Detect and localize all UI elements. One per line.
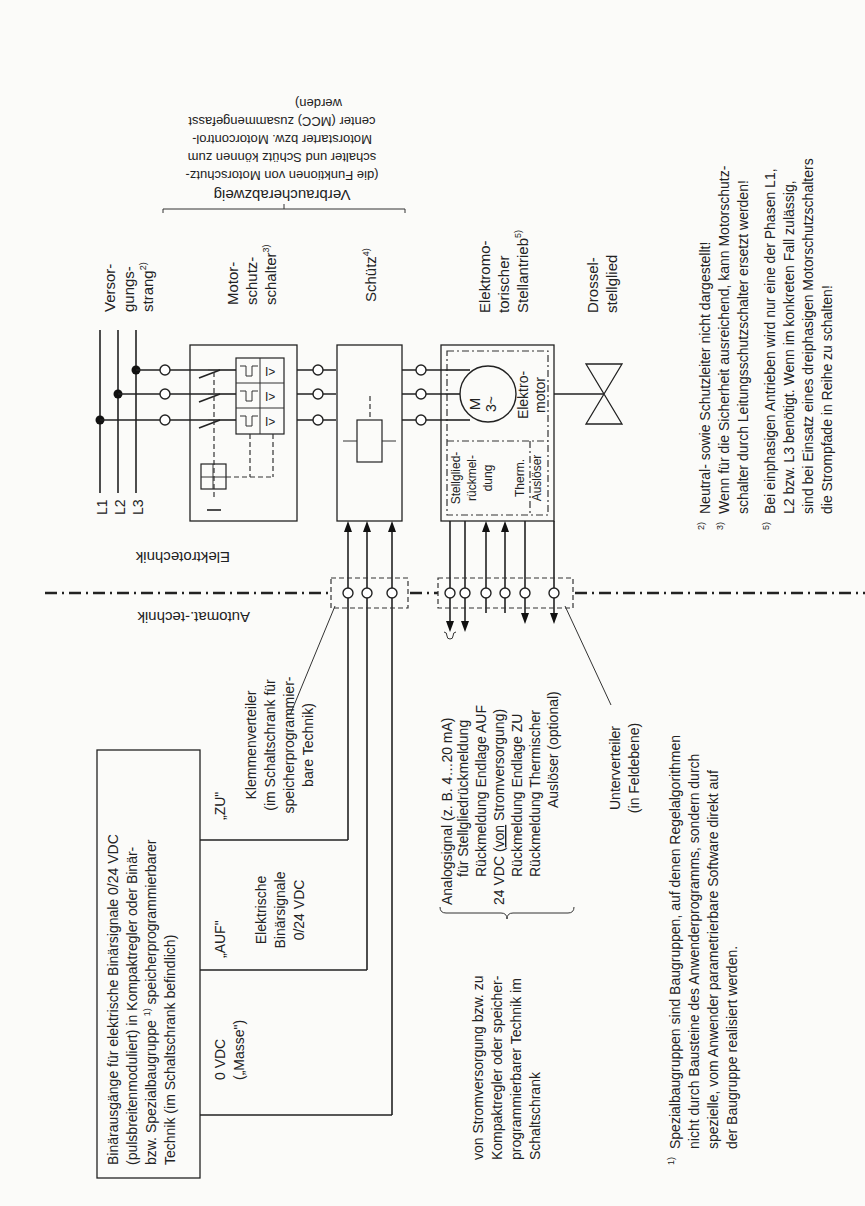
svg-text:Unterverteiler: Unterverteiler — [607, 726, 623, 810]
svg-text:bzw. Spezialbaugruppe 1) speic: bzw. Spezialbaugruppe 1) speicherprogram… — [142, 839, 159, 1165]
svg-text:5): 5) — [761, 522, 771, 530]
footnote-1: 1) Spezialbaugruppen sind Baugruppen, au… — [666, 735, 740, 1165]
svg-text:für Stellgliedrückmeldung: für Stellgliedrückmeldung — [455, 720, 471, 877]
svg-text:Bei einphasigen Antrieben wird: Bei einphasigen Antrieben wird nur eine … — [762, 168, 778, 514]
verbraucherabzweig-bracket — [163, 204, 405, 213]
svg-text:gungs-: gungs- — [120, 266, 137, 312]
svg-text:(„Masse"): („Masse") — [231, 1020, 247, 1080]
svg-text:Binärsignale: Binärsignale — [272, 871, 288, 948]
binary-outputs-text: Binärausgänge für elektrische Binärsigna… — [105, 834, 178, 1165]
schematic-diagram: L1 L2 L3 I> I> I> — [0, 0, 865, 1206]
svg-text:Elektromo-: Elektromo- — [476, 240, 493, 313]
motor-protection-label: Motor- schutz- schalter3) — [224, 244, 279, 305]
svg-text:werden): werden) — [295, 96, 343, 111]
svg-text:Spezialbaugruppen sind Baugrup: Spezialbaugruppen sind Baugruppen, auf d… — [667, 735, 683, 1149]
svg-text:Motor-: Motor- — [224, 262, 241, 305]
svg-text:Rückmeldung Thermischer: Rückmeldung Thermischer — [527, 710, 543, 877]
svg-text:Motorstarter bzw. Motorcontrol: Motorstarter bzw. Motorcontrol- — [192, 132, 372, 147]
auf-label: „AUF" — [212, 920, 228, 958]
svg-text:center (MCC) zusammengefasst: center (MCC) zusammengefasst — [188, 114, 375, 129]
svg-text:Verbraucherabzweig: Verbraucherabzweig — [214, 187, 351, 204]
svg-text:stellglied: stellglied — [603, 255, 620, 313]
svg-text:programmierbarer Technik im: programmierbarer Technik im — [508, 978, 524, 1160]
svg-text:Versor-: Versor- — [101, 264, 118, 312]
svg-text:(die Funktionen von Motorschut: (die Funktionen von Motorschutz- — [186, 168, 379, 183]
motor-phase-symbol: 3~ — [483, 396, 499, 412]
svg-text:speicherprogrammier-: speicherprogrammier- — [281, 676, 297, 813]
svg-text:Schaltschrank: Schaltschrank — [527, 1071, 543, 1160]
svg-text:I>: I> — [265, 390, 275, 404]
klemmenverteiler-label: Klemmenverteiler (im Schaltschrank für s… — [243, 676, 316, 813]
svg-text:von Stromversorgung bzw. zu: von Stromversorgung bzw. zu — [470, 976, 486, 1160]
svg-text:Wenn für die Sicherheit ausrei: Wenn für die Sicherheit ausreichend, kan… — [716, 165, 732, 514]
svg-text:Auslöser (optional): Auslöser (optional) — [545, 691, 561, 808]
phase-label-l3: L3 — [130, 499, 146, 515]
motor-symbol: M — [466, 398, 483, 411]
svg-text:sind bei Einsatz eines dreipha: sind bei Einsatz eines dreiphasigen Moto… — [800, 158, 816, 514]
svg-text:rückmel-: rückmel- — [465, 455, 479, 501]
svg-text:(pulsbreitenmoduliert) in Komp: (pulsbreitenmoduliert) in Kompaktregler … — [124, 846, 140, 1165]
svg-text:Auslöser: Auslöser — [530, 455, 544, 502]
svg-text:Kompaktregler oder speicher-: Kompaktregler oder speicher- — [489, 975, 505, 1160]
svg-text:3): 3) — [715, 522, 725, 530]
svg-text:Drossel-: Drossel- — [584, 257, 601, 313]
zu-label: „ZU" — [212, 792, 228, 820]
domain-boundary: Elektrotechnik Automat.-technik — [45, 549, 865, 626]
throttle-label: Drossel- stellglied — [584, 255, 620, 313]
svg-text:„ZU": „ZU" — [212, 792, 228, 820]
supply-strand-label: Versor- gungs- strang2) — [101, 262, 156, 312]
svg-text:torischer: torischer — [495, 255, 512, 313]
actuator: M 3~ Elektro- motor Stellglied- rückmel-… — [441, 345, 558, 632]
svg-text:schalter durch Leitungsschutzs: schalter durch Leitungsschutzschalter er… — [735, 180, 751, 514]
svg-text:dung: dung — [481, 465, 495, 492]
stellglied-rueckmeldung-label: Stellglied- — [449, 452, 463, 505]
svg-text:2): 2) — [696, 522, 706, 530]
svg-text:I>: I> — [265, 415, 275, 429]
svg-text:Elektrische: Elektrische — [253, 876, 269, 945]
svg-text:Technik (im Schaltschrank befi: Technik (im Schaltschrank befindlich) — [162, 935, 178, 1165]
svg-text:0 VDC: 0 VDC — [212, 1039, 228, 1080]
actuator-label: Elektromo- torischer Stellantrieb5) — [476, 230, 531, 313]
svg-text:der Baugruppe realisiert werde: der Baugruppe realisiert werden. — [724, 946, 740, 1149]
svg-text:Neutral- sowie Schutzleiter ni: Neutral- sowie Schutzleiter nicht darges… — [697, 242, 713, 514]
verbraucherabzweig-text: Verbraucherabzweig (die Funktionen von M… — [186, 96, 379, 204]
svg-text:die Strompfade in Reihe zu sch: die Strompfade in Reihe zu schalten! — [819, 285, 835, 514]
domain-label-elektrotechnik: Elektrotechnik — [135, 549, 230, 566]
svg-text:0/24 VDC: 0/24 VDC — [291, 880, 307, 941]
svg-text:„AUF": „AUF" — [212, 920, 228, 958]
svg-text:Schütz4): Schütz4) — [361, 248, 379, 302]
unterverteiler-label: Unterverteiler (in Feldebene) — [607, 723, 642, 813]
masse-label: 0 VDC („Masse") — [212, 1020, 247, 1080]
thermal-trip-label: Therm. — [513, 459, 527, 497]
svg-text:Binärausgänge für elektrische: Binärausgänge für elektrische Binärsigna… — [105, 834, 121, 1165]
svg-text:(in Feldebene): (in Feldebene) — [626, 723, 642, 813]
footnote-5: 5) Bei einphasigen Antrieben wird nur ei… — [761, 158, 835, 530]
motor-protection-switch: I> I> I> — [190, 345, 336, 521]
svg-text:L2 bzw. L3 benötigt. Wenn im k: L2 bzw. L3 benötigt. Wenn im konkreten F… — [781, 180, 797, 514]
motor-label: Elektro- — [515, 371, 531, 420]
svg-text:1): 1) — [666, 1157, 676, 1165]
svg-text:nicht durch Bausteine des Anwe: nicht durch Bausteine des Anwenderprogra… — [686, 754, 702, 1149]
phase-label-l2: L2 — [112, 499, 128, 515]
svg-text:I>: I> — [265, 365, 275, 379]
svg-text:Stellantrieb5): Stellantrieb5) — [513, 230, 531, 313]
domain-label-automatisierungstechnik: Automat.-technik — [137, 609, 250, 626]
svg-text:Klemmenverteiler: Klemmenverteiler — [243, 690, 259, 799]
footnotes-2-3: 2) Neutral- sowie Schutzleiter nicht dar… — [696, 165, 751, 530]
svg-text:Analogsignal (z. B. 4…20 mA): Analogsignal (z. B. 4…20 mA) — [439, 717, 455, 905]
svg-text:schalter3): schalter3) — [261, 244, 279, 305]
svg-text:strang2): strang2) — [138, 262, 156, 312]
svg-text:bare Technik): bare Technik) — [300, 703, 316, 787]
supply-bus: L1 L2 L3 — [94, 330, 208, 515]
document-page: L1 L2 L3 I> I> I> — [0, 0, 865, 1206]
contactor — [337, 345, 445, 690]
svg-text:spezielle, vom Anwender parame: spezielle, vom Anwender parametrierbare … — [705, 770, 721, 1149]
svg-text:motor: motor — [532, 377, 548, 413]
svg-text:Rückmeldung Endlage ZU: Rückmeldung Endlage ZU — [509, 714, 525, 877]
contactor-label: Schütz4) — [361, 248, 379, 302]
svg-text:schutz-: schutz- — [243, 257, 260, 305]
svg-text:schalter und Schütz können zum: schalter und Schütz können zum — [188, 150, 377, 165]
svg-text:24 VDC (von Stromversorgung): 24 VDC (von Stromversorgung) — [491, 709, 507, 905]
signal-descriptions: Analogsignal (z. B. 4…20 mA) für Stellgl… — [439, 691, 561, 905]
svg-text:(im Schaltschrank für: (im Schaltschrank für — [262, 679, 278, 811]
